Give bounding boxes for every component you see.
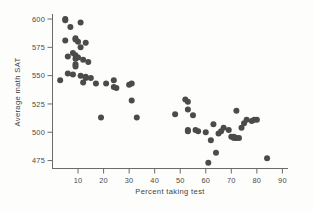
x-tick-label: 80 (253, 176, 262, 185)
data-point (103, 81, 109, 87)
data-point (129, 98, 135, 104)
data-point (233, 108, 239, 114)
data-point (93, 81, 99, 87)
scatter-plot-figure: 475500525550575600 102030405060708090 Pe… (0, 0, 313, 213)
data-point (83, 75, 89, 81)
x-tick-label: 60 (201, 176, 210, 185)
data-point (98, 115, 104, 121)
data-point (185, 128, 191, 134)
y-axis-ticks: 475500525550575600 (32, 15, 52, 166)
data-point (78, 73, 84, 79)
axes (53, 15, 288, 169)
data-point (203, 129, 209, 135)
data-point (221, 125, 227, 131)
scatter-plot-canvas: 475500525550575600 102030405060708090 Pe… (0, 0, 313, 213)
data-point (65, 70, 71, 76)
x-tick-label: 10 (74, 176, 83, 185)
data-point (226, 127, 232, 133)
data-point (88, 75, 94, 81)
data-point (195, 128, 201, 134)
data-point (83, 40, 89, 46)
x-tick-label: 40 (150, 176, 159, 185)
y-tick-label: 575 (32, 43, 45, 52)
x-tick-label: 50 (176, 176, 185, 185)
data-point (62, 38, 68, 44)
data-point (264, 155, 270, 161)
x-tick-label: 30 (125, 176, 134, 185)
data-point (75, 39, 81, 45)
data-point (236, 135, 242, 141)
x-tick-label: 20 (99, 176, 108, 185)
data-point (244, 117, 250, 123)
data-point (205, 160, 211, 166)
data-point (129, 81, 135, 87)
data-point (213, 150, 219, 156)
x-tick-label: 70 (227, 176, 236, 185)
data-point (80, 57, 86, 63)
data-point (185, 107, 191, 113)
data-point (78, 19, 84, 25)
data-point (111, 77, 117, 83)
y-tick-label: 525 (32, 100, 45, 109)
y-tick-label: 550 (32, 71, 45, 80)
data-point (70, 72, 76, 78)
data-point (172, 111, 178, 117)
data-point (185, 99, 191, 105)
data-point (254, 117, 260, 123)
x-tick-label: 90 (278, 176, 287, 185)
data-points (57, 16, 270, 166)
data-point (85, 59, 91, 65)
y-tick-label: 475 (32, 156, 45, 165)
y-tick-label: 600 (32, 15, 45, 24)
data-point (78, 44, 84, 50)
data-point (190, 112, 196, 118)
data-point (208, 137, 214, 143)
data-point (67, 24, 73, 30)
x-axis-ticks: 102030405060708090 (74, 169, 287, 186)
data-point (210, 121, 216, 127)
data-point (57, 77, 63, 83)
x-axis-title: Percent taking test (135, 187, 205, 196)
data-point (75, 55, 81, 61)
data-point (113, 85, 119, 91)
y-tick-label: 500 (32, 128, 45, 137)
data-point (65, 53, 71, 59)
data-point (62, 17, 68, 23)
y-axis-title: Average math SAT (13, 57, 22, 126)
data-point (72, 64, 78, 70)
data-point (134, 115, 140, 121)
